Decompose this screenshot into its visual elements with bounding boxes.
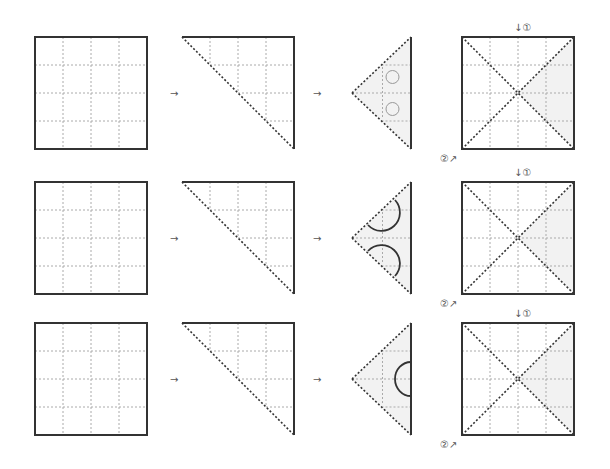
row-3: →→↓①②↗ — [35, 308, 574, 450]
square-grid — [35, 37, 147, 149]
arrow-right-icon: → — [170, 374, 178, 385]
arrow-right-icon: → — [313, 374, 321, 385]
arrow-right-icon: → — [170, 233, 178, 244]
unfolded-square: ↓①②↗ — [440, 308, 574, 450]
unfolded-square: ↓①②↗ — [440, 167, 574, 309]
unfolded-square: ↓①②↗ — [440, 22, 574, 164]
triangle-half — [182, 323, 294, 435]
folded-triangle — [352, 323, 411, 435]
triangle-half — [182, 37, 294, 149]
square-grid — [35, 323, 147, 435]
triangle-half — [182, 182, 294, 294]
folded-triangle — [352, 182, 411, 294]
folding-diagram: →→↓①②↗→→↓①②↗→→↓①②↗ — [0, 0, 610, 469]
folded-triangle — [352, 37, 411, 149]
row-1: →→↓①②↗ — [35, 22, 574, 164]
step-2-label: ②↗ — [440, 439, 457, 450]
step-2-label: ②↗ — [440, 153, 457, 164]
step-1-label: ↓① — [514, 308, 531, 319]
step-1-label: ↓① — [514, 22, 531, 33]
row-2: →→↓①②↗ — [35, 167, 574, 309]
arrow-right-icon: → — [170, 88, 178, 99]
arrow-right-icon: → — [313, 88, 321, 99]
step-2-label: ②↗ — [440, 298, 457, 309]
square-grid — [35, 182, 147, 294]
step-1-label: ↓① — [514, 167, 531, 178]
arrow-right-icon: → — [313, 233, 321, 244]
